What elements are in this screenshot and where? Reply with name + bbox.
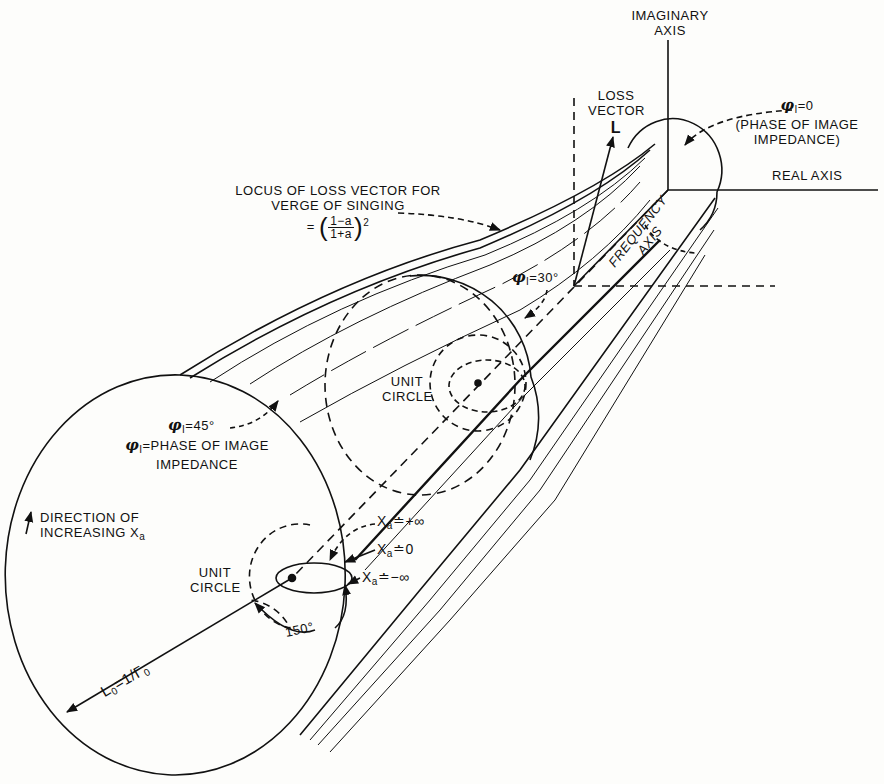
tube-top-edge xyxy=(180,144,655,375)
lower-nose-ellipse xyxy=(276,563,352,593)
locus-equals: = xyxy=(307,219,315,234)
phi-zero-note-line2: IMPEDANCE) xyxy=(712,132,882,147)
imaginary-axis-label: IMAGINARY AXIS xyxy=(622,8,718,38)
imaginary-axis-label-line1: IMAGINARY xyxy=(622,8,718,23)
real-axis-label: REAL AXIS xyxy=(772,168,843,183)
tube-bottom-edge xyxy=(300,198,715,735)
phi-zero-value: =0 xyxy=(798,98,814,113)
middle-ring-solid xyxy=(410,275,539,460)
lower-unit-circle-label-line1: UNIT xyxy=(190,565,240,580)
direction-label-line1: DIRECTION OF xyxy=(40,510,145,525)
xa-zero-leader xyxy=(345,550,375,562)
locus-label-line2: VERGE OF SINGING xyxy=(218,198,458,213)
xa-value: ≐0 xyxy=(393,541,414,557)
xa-plus-leader xyxy=(330,524,375,560)
loss-vector-label-line1: LOSS xyxy=(588,88,644,103)
phi45-leader xyxy=(230,401,278,428)
xa-var: X xyxy=(377,513,387,529)
phi-zero-label: φI=0 (PHASE OF IMAGE IMPEDANCE) xyxy=(712,98,882,147)
phi-45-label: φI=45° xyxy=(168,418,215,437)
direction-label: DIRECTION OF INCREASING Xa xyxy=(40,510,145,544)
paren-close: ) xyxy=(354,212,363,242)
paren-open: ( xyxy=(319,212,328,242)
phi-45-value: =45° xyxy=(185,418,214,433)
xa-value: ≐−∞ xyxy=(378,569,410,585)
locus-formula: = (1−a1+a)2 xyxy=(218,215,458,240)
locus-exponent: 2 xyxy=(363,217,369,228)
direction-subscript: a xyxy=(139,531,145,542)
lower-unit-circle xyxy=(249,524,310,628)
phi-symbol: φ xyxy=(512,268,526,286)
phi-zero-eq: φI=0 xyxy=(712,98,882,117)
xa-value: ≐+∞ xyxy=(393,513,425,529)
xa-zero-label: Xa≐0 xyxy=(377,542,414,561)
phi-symbol: φ xyxy=(168,416,182,434)
phi-symbol: φ xyxy=(125,436,139,454)
xa-minus-leader xyxy=(348,578,360,584)
phi-definition-label: φI=PHASE OF IMAGE IMPEDANCE xyxy=(102,438,292,472)
phi-symbol: φ xyxy=(780,96,794,114)
upper-center-dot xyxy=(475,380,481,386)
phi-30-value: =30° xyxy=(529,270,558,285)
phi-definition-line1: φI=PHASE OF IMAGE xyxy=(102,438,292,457)
xa-plus-infinity-label: Xa≐+∞ xyxy=(377,514,425,533)
phi-definition-text: =PHASE OF IMAGE xyxy=(143,438,269,453)
phi30-leader xyxy=(525,290,547,318)
loss-vector-label-line2: VECTOR xyxy=(588,103,644,118)
xa-var: X xyxy=(362,569,372,585)
diagram-canvas: IMAGINARY AXIS REAL AXIS LOSS VECTOR L φ… xyxy=(0,0,884,784)
direction-arrow xyxy=(26,512,31,534)
upper-unit-circle-label-line2: CIRCLE xyxy=(382,389,432,404)
locus-fraction: 1−a1+a xyxy=(328,215,354,240)
upper-unit-circle-label-line1: UNIT xyxy=(382,374,432,389)
phi-zero-note-line1: (PHASE OF IMAGE xyxy=(712,117,882,132)
phi-30-label: φI=30° xyxy=(512,270,559,289)
loss-vector-symbol: L xyxy=(588,120,644,135)
lower-unit-circle-label: UNIT CIRCLE xyxy=(190,565,240,595)
locus-denominator: 1+a xyxy=(328,228,354,240)
lower-unit-circle-label-line2: CIRCLE xyxy=(190,580,240,595)
direction-text: INCREASING X xyxy=(40,525,139,540)
phi-definition-line2: IMPEDANCE xyxy=(102,457,292,472)
imaginary-axis-label-line2: AXIS xyxy=(622,23,718,38)
locus-label: LOCUS OF LOSS VECTOR FOR VERGE OF SINGIN… xyxy=(218,183,458,240)
direction-label-line2: INCREASING Xa xyxy=(40,525,145,544)
xa-var: X xyxy=(377,541,387,557)
loss-vector-label: LOSS VECTOR L xyxy=(588,88,644,135)
xa-minus-infinity-label: Xa≐−∞ xyxy=(362,570,410,589)
upper-unit-circle-label: UNIT CIRCLE xyxy=(382,374,432,404)
locus-label-line1: LOCUS OF LOSS VECTOR FOR xyxy=(218,183,458,198)
